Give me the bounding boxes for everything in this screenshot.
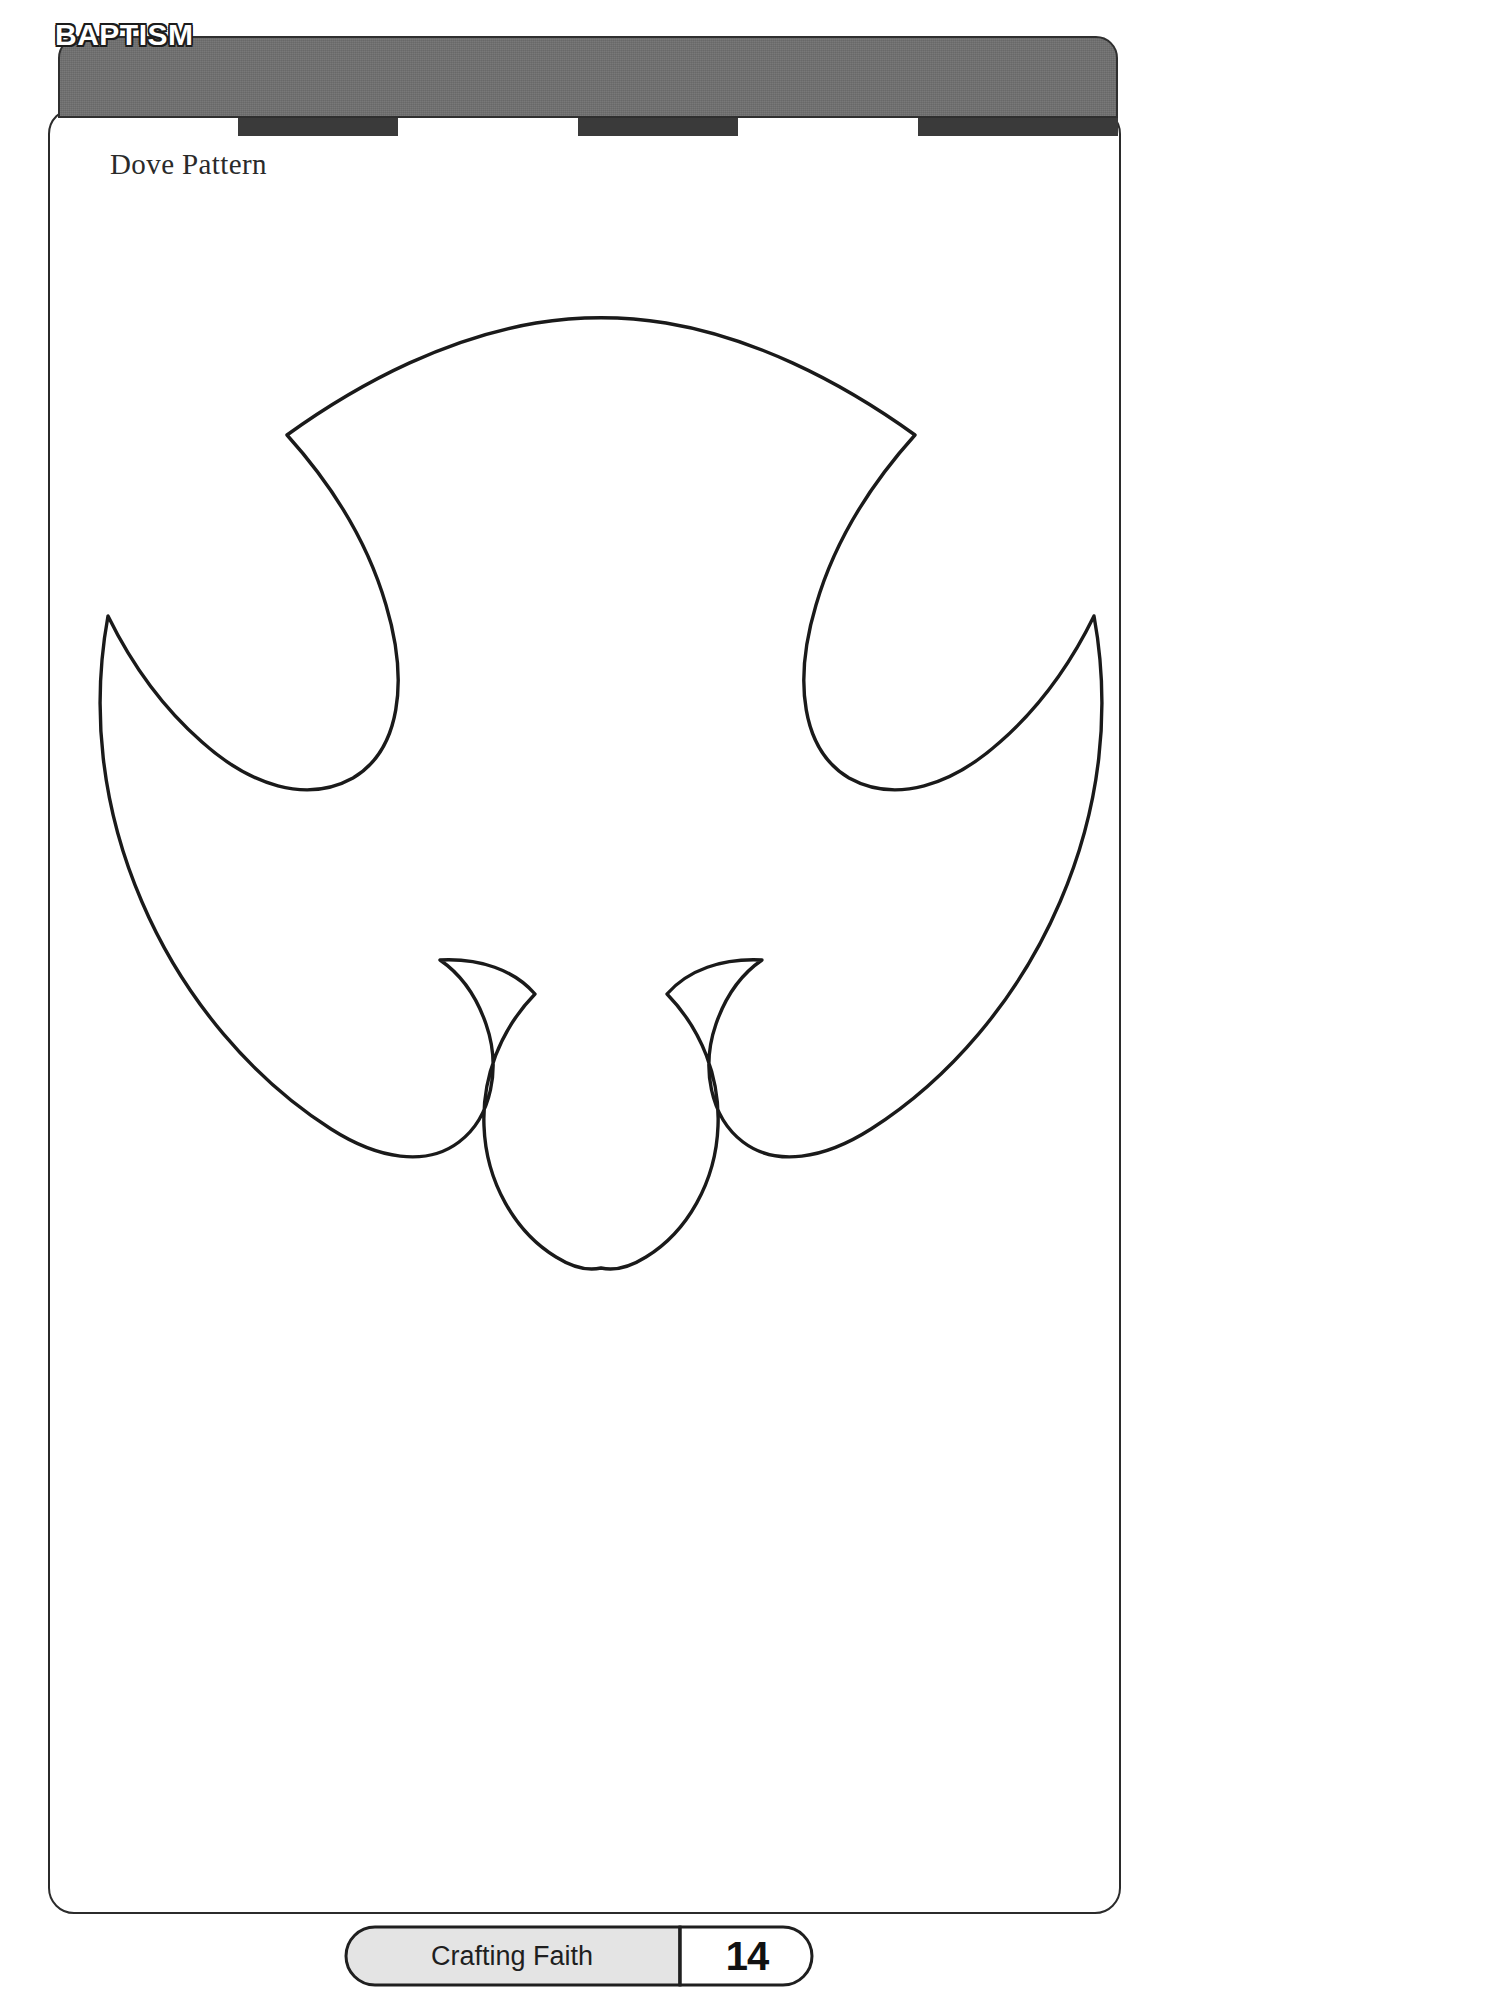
stripe-segment-1	[238, 118, 398, 136]
pattern-label: Dove Pattern	[110, 148, 267, 181]
stripe-segment-5	[918, 118, 1118, 136]
footer-page-shape	[680, 1927, 812, 1985]
dove-pattern-figure	[48, 280, 1121, 1320]
footer-tab	[344, 1925, 814, 1987]
footer-series-shape	[346, 1927, 680, 1985]
activity-title: People Collage	[1311, 26, 1454, 49]
dove-outline-icon	[48, 280, 1121, 1320]
stripe-segment-3	[578, 118, 738, 136]
page-sheet: BAPTISM People Collage Dove Pattern Craf…	[0, 0, 1502, 2016]
chapter-header-bar	[58, 36, 1118, 118]
chapter-title: BAPTISM	[55, 18, 194, 52]
stripe-segment-0	[58, 118, 238, 136]
stripe-segment-2	[398, 118, 578, 136]
stripe-segment-4	[738, 118, 918, 136]
header-stripe-band	[58, 118, 1118, 136]
